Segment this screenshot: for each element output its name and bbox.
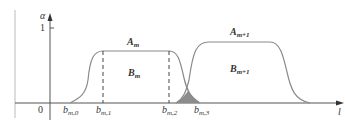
y-axis-label: α [40, 10, 45, 21]
x-tick-b-m0: bm,0 [63, 104, 78, 117]
label-b-m: Bm [128, 67, 140, 80]
label-b-m-plus-1: Bm+1 [230, 63, 250, 76]
x-axis-label: l [338, 106, 341, 117]
y-tick-label: 1 [40, 22, 45, 33]
label-a-m: Am [127, 36, 139, 49]
label-a-m-plus-1: Am+1 [230, 26, 250, 39]
x-axis-arrow-icon [336, 101, 344, 106]
y-axis-arrow-icon [48, 13, 53, 21]
origin-label: 0 [38, 104, 43, 115]
x-tick-b-m1: bm,1 [96, 104, 111, 117]
x-tick-b-m3: bm,3 [194, 104, 209, 117]
x-tick-b-m2: bm,2 [162, 104, 177, 117]
